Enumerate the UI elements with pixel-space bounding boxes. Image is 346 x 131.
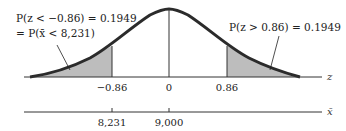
z-tick-086: 0.86 [216, 82, 238, 93]
left-pointer-line [57, 45, 70, 70]
left-annotation-line2: = P(x̄ < 8,231) [16, 27, 95, 39]
xbar-tick-label-9000: 9,000 [155, 117, 184, 128]
left-annotation-line1: P(z < −0.86) = 0.1949 [16, 12, 137, 24]
normal-curve-diagram: P(z < −0.86) = 0.1949 = P(x̄ < 8,231) P(… [0, 0, 346, 131]
z-tick-0: 0 [166, 82, 172, 93]
z-axis-label: z [326, 71, 333, 82]
right-pointer-line [270, 36, 279, 70]
xbar-tick-label-8231: 8,231 [98, 117, 127, 128]
z-tick-neg086: −0.86 [97, 82, 128, 93]
xbar-axis-label: x̄ [327, 106, 333, 117]
right-annotation: P(z > 0.86) = 0.1949 [229, 21, 341, 33]
